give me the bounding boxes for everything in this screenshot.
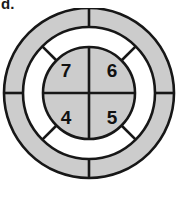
inner-cell-bottom-right: 5: [107, 107, 118, 128]
inner-cell-bottom-left: 4: [61, 107, 72, 128]
inner-cell-top-right: 6: [107, 60, 118, 81]
concentric-circles-diagram: 7 6 4 5: [0, 8, 178, 197]
inner-cell-top-left: 7: [61, 60, 72, 81]
figure-root: d. 7 6 4 5: [0, 0, 178, 197]
